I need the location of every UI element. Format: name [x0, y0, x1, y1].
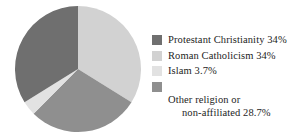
- pie-chart-svg: [14, 4, 142, 134]
- legend-label-other-religion-line1: Other religion or: [168, 94, 240, 105]
- legend-label-other-religion: Other religion or non-affiliated 28.7%: [168, 80, 271, 132]
- legend-item-roman-catholicism: Roman Catholicism 34%: [152, 49, 307, 62]
- legend-swatch-other-religion: [152, 82, 162, 92]
- chart-legend: Protestant Christianity 34% Roman Cathol…: [152, 33, 307, 134]
- legend-label-roman-catholicism: Roman Catholicism 34%: [168, 49, 276, 62]
- legend-item-islam: Islam 3.7%: [152, 64, 307, 77]
- legend-item-protestant-christianity: Protestant Christianity 34%: [152, 33, 307, 46]
- legend-swatch-islam: [152, 66, 162, 76]
- legend-label-other-religion-line2: non-affiliated 28.7%: [168, 106, 271, 119]
- legend-swatch-roman-catholicism: [152, 51, 162, 61]
- legend-label-islam: Islam 3.7%: [168, 64, 217, 77]
- legend-swatch-protestant-christianity: [152, 35, 162, 45]
- pie-chart-page: Protestant Christianity 34% Roman Cathol…: [0, 0, 307, 138]
- legend-label-protestant-christianity: Protestant Christianity 34%: [168, 33, 287, 46]
- pie-chart: [14, 4, 142, 134]
- legend-item-other-religion: Other religion or non-affiliated 28.7%: [152, 80, 307, 132]
